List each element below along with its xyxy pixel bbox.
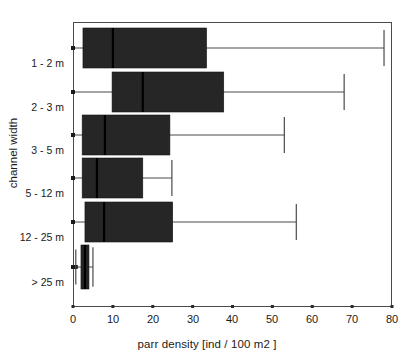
y-tick-label-4: 12 - 25 m: [4, 231, 64, 243]
x-tick-label-1: 10: [98, 313, 128, 325]
x-tick-label-0: 0: [58, 313, 88, 325]
x-tick-label-5: 50: [257, 313, 287, 325]
box-plot-chart: 1 - 2 m 2 - 3 m 3 - 5 m 5 - 12 m 12 - 25…: [0, 0, 414, 361]
x-tick-label-4: 40: [217, 313, 247, 325]
plot-area: [73, 22, 392, 307]
x-tick-label-6: 60: [297, 313, 327, 325]
y-tick-label-5: > 25 m: [4, 276, 64, 288]
x-tick-label-8: 80: [377, 313, 407, 325]
y-axis-title: channel width: [7, 108, 19, 198]
x-tick-label-2: 20: [138, 313, 168, 325]
x-tick-label-7: 70: [337, 313, 367, 325]
x-tick-label-3: 30: [178, 313, 208, 325]
x-axis-title: parr density [ind / 100 m2 ]: [0, 338, 414, 350]
y-tick-label-0: 1 - 2 m: [4, 57, 64, 69]
